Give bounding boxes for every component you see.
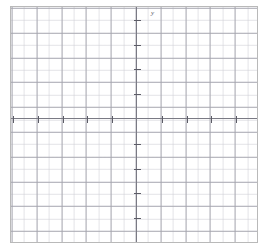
x-axis-tick [87, 116, 88, 123]
y-axis-tick [134, 69, 141, 70]
y-axis-tick [134, 193, 141, 194]
y-axis-line [136, 7, 137, 243]
y-axis-tick [134, 94, 141, 95]
x-axis-tick [38, 116, 39, 123]
x-axis-tick [236, 116, 237, 123]
x-axis-tick [187, 116, 188, 123]
x-axis-tick [211, 116, 212, 123]
y-axis-tick [134, 20, 141, 21]
y-axis-tick [134, 169, 141, 170]
y-axis-tick [134, 45, 141, 46]
y-axis-label: y [151, 10, 154, 17]
major-gridlines [11, 7, 257, 242]
plot-frame: y x [10, 6, 258, 243]
coordinate-grid-figure: y x [0, 0, 268, 251]
x-axis-tick [112, 116, 113, 123]
x-axis-tick [63, 116, 64, 123]
x-axis-line [11, 118, 258, 119]
minor-gridlines [11, 7, 257, 242]
y-axis-tick [134, 144, 141, 145]
x-axis-tick [162, 116, 163, 123]
y-axis-tick [134, 218, 141, 219]
x-axis-tick [13, 116, 14, 123]
